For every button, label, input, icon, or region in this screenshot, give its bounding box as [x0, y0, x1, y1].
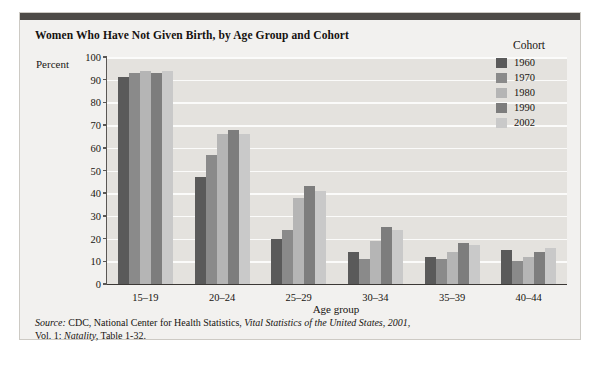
- bar-1990-25-29: [304, 186, 315, 284]
- bar-1970-35-39: [436, 259, 447, 284]
- legend-item-1970[interactable]: 1970: [496, 70, 580, 85]
- bar-1960-15-19: [118, 77, 129, 284]
- y-tick-label: 80: [91, 97, 102, 108]
- bar-1990-40-44: [534, 252, 545, 284]
- legend-swatch-icon: [496, 88, 507, 98]
- bar-2002-30-34: [392, 230, 403, 284]
- bar-1970-40-44: [512, 261, 523, 284]
- y-tick-label: 40: [91, 188, 102, 199]
- legend-swatch-icon: [496, 73, 507, 83]
- bar-1970-15-19: [129, 73, 140, 284]
- bar-group: 25–29: [260, 57, 337, 284]
- legend-label: 1980: [514, 87, 535, 98]
- x-tick-label: 20–24: [209, 292, 235, 303]
- y-tick-label: 60: [91, 142, 102, 153]
- header-bar: [20, 13, 580, 20]
- bar-1980-40-44: [523, 257, 534, 284]
- legend-item-1960[interactable]: 1960: [496, 55, 580, 70]
- source-natality: Natality,: [64, 330, 98, 341]
- chart-page: Women Who Have Not Given Birth, by Age G…: [0, 0, 602, 369]
- bar-1970-30-34: [359, 259, 370, 284]
- legend-swatch-icon: [496, 118, 507, 128]
- bar-1960-25-29: [271, 239, 282, 284]
- y-tick-label: 10: [91, 256, 102, 267]
- x-tick-label: 30–34: [362, 292, 388, 303]
- bar-1980-25-29: [293, 198, 304, 284]
- bar-1960-35-39: [425, 257, 436, 284]
- y-tick-label: 30: [91, 210, 102, 221]
- x-tick-label: 40–44: [516, 292, 542, 303]
- bar-1980-15-19: [140, 71, 151, 284]
- source-text-1: CDC, National Center for Health Statisti…: [66, 317, 245, 328]
- y-tick-label: 100: [85, 52, 101, 63]
- bar-group: 15–19: [107, 57, 184, 284]
- bar-1960-20-24: [195, 177, 206, 284]
- legend-swatch-icon: [496, 58, 507, 68]
- legend-label: 2002: [514, 117, 535, 128]
- source-label: Source:: [35, 317, 66, 328]
- bar-1990-35-39: [458, 243, 469, 284]
- source-note: Source: CDC, National Center for Health …: [35, 316, 571, 342]
- bar-1970-25-29: [282, 230, 293, 284]
- chart-title: Women Who Have Not Given Birth, by Age G…: [35, 29, 349, 41]
- y-axis-label: Percent: [36, 58, 69, 70]
- bar-2002-40-44: [545, 248, 556, 284]
- bar-2002-25-29: [315, 191, 326, 284]
- bar-1980-30-34: [370, 241, 381, 284]
- legend: Cohort 19601970198019902002: [496, 39, 580, 130]
- y-tick-label: 50: [91, 165, 102, 176]
- source-line-2: Vol. 1: Natality, Table 1-32.: [35, 329, 571, 342]
- legend-label: 1990: [514, 102, 535, 113]
- bar-1990-30-34: [381, 227, 392, 284]
- bar-group: 30–34: [337, 57, 414, 284]
- legend-item-1980[interactable]: 1980: [496, 85, 580, 100]
- bar-1960-40-44: [501, 250, 512, 284]
- legend-label: 1960: [514, 57, 535, 68]
- bar-1980-20-24: [217, 134, 228, 284]
- source-line-1: Source: CDC, National Center for Health …: [35, 316, 571, 329]
- source-volume: Vol. 1:: [35, 330, 64, 341]
- bar-group: 35–39: [414, 57, 491, 284]
- source-publication: Vital Statistics of the United States, 2…: [244, 317, 410, 328]
- legend-swatch-icon: [496, 103, 507, 113]
- legend-label: 1970: [514, 72, 535, 83]
- bar-2002-20-24: [239, 134, 250, 284]
- bar-2002-35-39: [469, 245, 480, 284]
- legend-item-2002[interactable]: 2002: [496, 115, 580, 130]
- y-tick-label: 20: [91, 233, 102, 244]
- bar-1990-15-19: [151, 73, 162, 284]
- x-axis-label: Age group: [106, 303, 566, 315]
- x-tick-label: 35–39: [439, 292, 465, 303]
- y-tick-label: 0: [96, 279, 101, 290]
- chart-card: Women Who Have Not Given Birth, by Age G…: [19, 12, 581, 340]
- bar-group: 20–24: [184, 57, 261, 284]
- x-tick-label: 25–29: [286, 292, 312, 303]
- source-table: Table 1-32.: [98, 330, 146, 341]
- legend-item-1990[interactable]: 1990: [496, 100, 580, 115]
- y-tick-label: 90: [91, 74, 102, 85]
- bar-1980-35-39: [447, 252, 458, 284]
- y-tick-label: 70: [91, 120, 102, 131]
- bar-1960-30-34: [348, 252, 359, 284]
- legend-items: 19601970198019902002: [496, 55, 580, 130]
- x-tick-label: 15–19: [132, 292, 158, 303]
- legend-title: Cohort: [513, 39, 580, 51]
- bar-1970-20-24: [206, 155, 217, 284]
- bar-1990-20-24: [228, 130, 239, 284]
- bar-2002-15-19: [162, 71, 173, 284]
